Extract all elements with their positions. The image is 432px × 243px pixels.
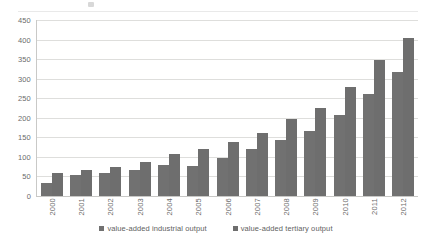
- x-tick-label-2005: 2005: [194, 198, 203, 216]
- x-tick-cell: 2007: [242, 197, 271, 225]
- bar: [169, 154, 180, 196]
- top-divider: [18, 11, 418, 12]
- bar-group: [66, 20, 95, 196]
- bar-group: [125, 20, 154, 196]
- bar-group: [96, 20, 125, 196]
- x-tick-cell: 2006: [213, 197, 242, 225]
- x-tick-label-2002: 2002: [106, 198, 115, 216]
- x-tick-cell: 2012: [389, 197, 418, 225]
- bar-group: [301, 20, 330, 196]
- bar: [304, 131, 315, 196]
- x-tick-label-2008: 2008: [282, 198, 291, 216]
- bar: [334, 115, 345, 196]
- bar-groups: [37, 20, 418, 196]
- x-tick-label-2001: 2001: [76, 198, 85, 216]
- bar: [363, 94, 374, 196]
- y-tick-label-200: 200: [2, 113, 31, 122]
- x-tick-cell: 2001: [66, 197, 95, 225]
- y-tick-label-250: 250: [2, 94, 31, 103]
- legend-label: value-added industrial output: [107, 224, 206, 233]
- x-tick-label-2004: 2004: [164, 198, 173, 216]
- x-tick-label-2012: 2012: [399, 198, 408, 216]
- bar-group: [154, 20, 183, 196]
- x-tick-label-2003: 2003: [135, 198, 144, 216]
- bar: [140, 162, 151, 196]
- top-artifact-mark: [88, 2, 94, 7]
- bar: [158, 165, 169, 196]
- square-marker-icon: [99, 226, 104, 231]
- x-tick-cell: 2002: [96, 197, 125, 225]
- bar: [275, 140, 286, 196]
- bar-group: [330, 20, 359, 196]
- bar: [315, 108, 326, 196]
- x-tick-cell: 2003: [125, 197, 154, 225]
- x-tick-cell: 2000: [37, 197, 66, 225]
- x-tick-cell: 2005: [184, 197, 213, 225]
- bar: [374, 60, 385, 196]
- x-tick-label-2006: 2006: [223, 198, 232, 216]
- x-tick-cell: 2008: [272, 197, 301, 225]
- x-tick-label-2007: 2007: [252, 198, 261, 216]
- bar: [198, 149, 209, 196]
- square-marker-icon: [233, 226, 238, 231]
- y-tick-label-400: 400: [2, 35, 31, 44]
- x-tick-cell: 2009: [301, 197, 330, 225]
- bar: [257, 133, 268, 196]
- bar-group: [184, 20, 213, 196]
- bar: [286, 119, 297, 196]
- bar: [129, 170, 140, 196]
- x-tick-cell: 2011: [359, 197, 388, 225]
- bar-group: [359, 20, 388, 196]
- x-tick-label-2009: 2009: [311, 198, 320, 216]
- bar: [99, 173, 110, 196]
- x-tick-label-2010: 2010: [340, 198, 349, 216]
- x-tick-label-2011: 2011: [370, 198, 379, 215]
- bar: [246, 149, 257, 196]
- bar: [70, 175, 81, 196]
- bar-group: [37, 20, 66, 196]
- bar: [392, 72, 403, 196]
- bar-group: [389, 20, 418, 196]
- bar: [403, 38, 414, 196]
- legend-item[interactable]: value-added tertiary output: [233, 224, 333, 233]
- bar-group: [213, 20, 242, 196]
- bar-chart: 450400350300250200150100500 200020012002…: [0, 0, 432, 243]
- y-tick-label-450: 450: [2, 16, 31, 25]
- chart-legend: value-added industrial outputvalue-added…: [0, 224, 432, 233]
- bar: [217, 158, 228, 196]
- y-tick-label-350: 350: [2, 55, 31, 64]
- bar: [187, 166, 198, 197]
- x-axis-tick-labels: 2000200120022003200420052006200720082009…: [37, 197, 418, 225]
- bar: [52, 173, 63, 196]
- bar: [81, 170, 92, 196]
- bar: [110, 167, 121, 196]
- y-tick-label-150: 150: [2, 133, 31, 142]
- x-tick-cell: 2004: [154, 197, 183, 225]
- y-tick-label-50: 50: [2, 172, 31, 181]
- bar-group: [242, 20, 271, 196]
- y-tick-label-100: 100: [2, 152, 31, 161]
- x-tick-label-2000: 2000: [47, 198, 56, 216]
- bar: [41, 183, 52, 196]
- y-tick-label-0: 0: [2, 192, 31, 201]
- legend-item[interactable]: value-added industrial output: [99, 224, 206, 233]
- bar: [228, 142, 239, 196]
- bar-group: [272, 20, 301, 196]
- x-tick-cell: 2010: [330, 197, 359, 225]
- legend-label: value-added tertiary output: [241, 224, 333, 233]
- bar: [345, 87, 356, 196]
- y-tick-label-300: 300: [2, 74, 31, 83]
